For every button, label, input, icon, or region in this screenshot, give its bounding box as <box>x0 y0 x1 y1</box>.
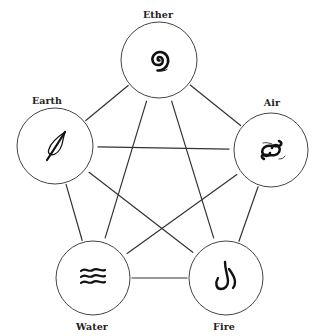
air-circle <box>234 113 308 187</box>
node-earth <box>17 108 93 184</box>
label-fire: Fire <box>213 321 235 332</box>
label-water: Water <box>76 321 108 332</box>
element-nodes <box>0 0 318 336</box>
label-air: Air <box>264 97 280 108</box>
fire-circle <box>189 241 263 315</box>
five-elements-diagram: Ether Earth Air Water Fire <box>0 0 318 336</box>
node-water <box>56 241 130 315</box>
label-ether: Ether <box>143 9 173 20</box>
label-earth: Earth <box>32 95 62 106</box>
water-circle <box>56 241 130 315</box>
node-air <box>234 113 308 187</box>
node-fire <box>189 241 263 315</box>
node-ether <box>121 22 197 98</box>
